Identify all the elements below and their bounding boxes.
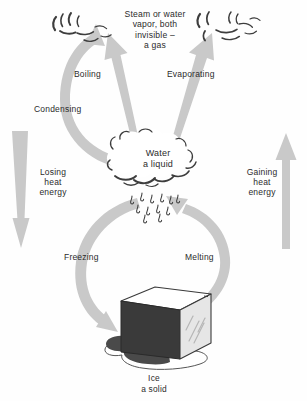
- losing-heat-arrow: [12, 131, 30, 248]
- evaporating-arrow: [169, 33, 214, 150]
- ice-block: [121, 287, 211, 359]
- gaining-heat-arrow: [276, 133, 297, 249]
- steam-cloud-right: [197, 12, 260, 40]
- diagram-canvas: [0, 0, 307, 401]
- water-states-diagram: Steam or water vapor, both invisible – a…: [0, 0, 307, 401]
- steam-cloud-left: [53, 13, 111, 41]
- water-cloud: [107, 129, 196, 187]
